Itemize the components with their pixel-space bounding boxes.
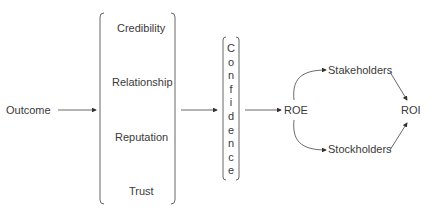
confidence-letter: o: [223, 56, 239, 68]
factors-bracket-left: [100, 13, 104, 204]
roe-label: ROE: [284, 104, 308, 116]
factors-bracket-right: [171, 13, 175, 204]
confidence-letter: e: [223, 164, 239, 176]
confidence-letter: i: [223, 96, 239, 108]
factor-credibility: Credibility: [117, 22, 165, 34]
confidence-letter: n: [223, 69, 239, 81]
factor-relationship: Relationship: [112, 76, 173, 88]
outcome-label: Outcome: [6, 104, 51, 116]
confidence-letter: c: [223, 151, 239, 163]
roi-label: ROI: [401, 104, 421, 116]
confidence-letter: e: [223, 124, 239, 136]
confidence-letter: f: [223, 83, 239, 95]
factor-trust: Trust: [129, 185, 154, 197]
stockholders-label: Stockholders: [328, 143, 392, 155]
arrow-roe-to-stockholders: [294, 120, 326, 150]
flow-diagram-canvas: [0, 0, 433, 219]
stakeholders-label: Stakeholders: [328, 64, 392, 76]
confidence-letter: d: [223, 110, 239, 122]
arrow-roe-to-stakeholders: [294, 70, 326, 100]
arrow-stakeholders-to-roi: [390, 72, 407, 100]
confidence-letter: C: [223, 42, 239, 54]
factor-reputation: Reputation: [115, 131, 168, 143]
arrow-stockholders-to-roi: [390, 123, 407, 150]
confidence-letter: n: [223, 137, 239, 149]
